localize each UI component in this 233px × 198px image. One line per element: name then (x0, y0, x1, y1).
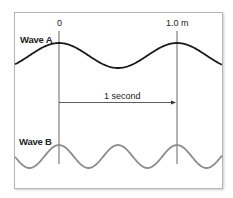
wave-b-label: Wave B (19, 136, 52, 147)
wave-a-label: Wave A (20, 34, 52, 45)
marker-end-label: 1.0 m (166, 18, 189, 28)
marker-start-label: 0 (57, 18, 62, 28)
interval-label: 1 second (104, 91, 141, 101)
